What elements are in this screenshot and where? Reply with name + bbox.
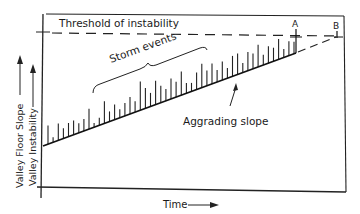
y-axis-inner-arrowhead-icon bbox=[30, 64, 36, 73]
y-axis bbox=[41, 14, 43, 198]
frame-right-border bbox=[344, 16, 346, 192]
x-axis-label: Time bbox=[162, 199, 187, 210]
y-axis-outer-arrowhead-icon bbox=[17, 55, 23, 64]
projected-slope-line bbox=[298, 37, 336, 52]
frame-top-border bbox=[46, 14, 344, 16]
storm-spikes bbox=[48, 39, 294, 144]
aggrading-slope-line bbox=[43, 53, 296, 146]
instability-diagram: Threshold of instability A B Storm event… bbox=[0, 0, 360, 214]
threshold-label: Threshold of instability bbox=[58, 17, 179, 29]
threshold-line bbox=[52, 33, 340, 36]
slope-pointer-arrowhead bbox=[233, 83, 238, 91]
point-b-label: B bbox=[333, 21, 339, 31]
storm-events-label: Storm events bbox=[108, 30, 178, 65]
x-axis-arrowhead-icon bbox=[210, 202, 219, 208]
y-axis-label-outer: Valley Floor Slope bbox=[14, 103, 25, 188]
y-axis-label-inner: Valley Instability bbox=[27, 108, 38, 186]
point-a-label: A bbox=[292, 19, 299, 29]
x-axis bbox=[37, 187, 346, 192]
aggrading-slope-label: Aggrading slope bbox=[183, 115, 268, 127]
